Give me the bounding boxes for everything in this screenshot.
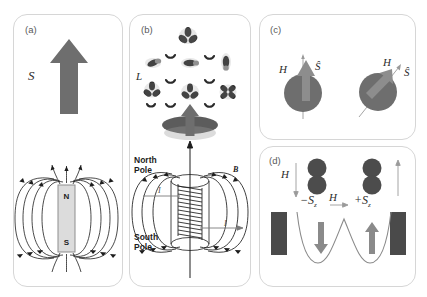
well-arrow-down: [314, 222, 328, 254]
state-left-sub: z: [314, 201, 317, 209]
figure-root: (a) S N S: [0, 0, 427, 297]
electrode-left: [271, 212, 287, 255]
state-right-sub: z: [368, 201, 371, 209]
panel-d-state-left: −Sz: [300, 193, 317, 209]
spin-pair-left: [308, 159, 327, 195]
state-left-text: −S: [300, 193, 314, 207]
state-right-text: +S: [354, 193, 368, 207]
panel-d-field-label-mid: H⃗: [329, 191, 346, 203]
panel-d-field-label-left: H⃗: [281, 168, 298, 180]
panel-d-graphics: [0, 0, 427, 297]
panel-d-state-right: +Sz: [354, 193, 371, 209]
double-well-curve: [297, 212, 391, 263]
spin-pair-right: [363, 159, 382, 195]
field-arrow-up-right: [396, 160, 400, 196]
well-arrow-up: [365, 222, 379, 254]
field-arrow-right-mid: [330, 203, 348, 207]
electrode-right: [390, 212, 406, 255]
